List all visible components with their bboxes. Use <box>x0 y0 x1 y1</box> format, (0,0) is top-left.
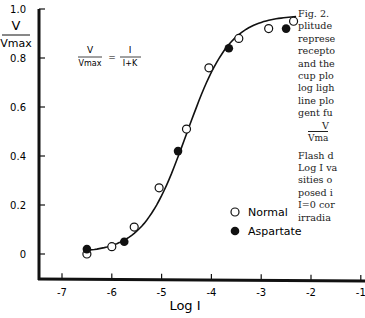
x-tick-label: -5 <box>157 287 167 298</box>
x-tick-label: -4 <box>206 287 216 298</box>
normal-point <box>108 243 116 251</box>
caption-line: Fig. 2. <box>298 8 365 20</box>
caption-line: line plo <box>298 95 365 107</box>
legend-aspartate-label: Aspartate <box>248 225 302 238</box>
legend: Normal Aspartate <box>231 206 302 238</box>
legend-aspartate-marker <box>231 227 240 236</box>
y-tick-label: 1.0 <box>10 4 26 15</box>
aspartate-point <box>282 24 291 33</box>
caption-line: gent fu <box>298 107 365 119</box>
normal-point <box>183 125 191 133</box>
aspartate-point <box>83 245 92 254</box>
x-tick-label: -1 <box>356 287 365 298</box>
svg-text:V: V <box>87 45 94 55</box>
y-tick-label: 0 <box>20 249 26 260</box>
x-tick-label: -6 <box>107 287 117 298</box>
caption-line: posed i <box>298 187 365 199</box>
x-axis-label: Log I <box>169 298 200 313</box>
x-tick-label: -2 <box>306 287 316 298</box>
legend-normal-marker <box>231 208 239 216</box>
y-tick-label: 0.6 <box>10 102 26 113</box>
normal-point <box>290 17 298 25</box>
caption-line: represe <box>298 33 365 45</box>
aspartate-point <box>174 147 183 156</box>
y-axis-label: V Vmax <box>0 18 32 50</box>
normal-point <box>265 25 273 33</box>
normal-point <box>130 223 138 231</box>
y-tick-label: 0.2 <box>10 200 26 211</box>
y-tick-label: 0.8 <box>10 53 26 64</box>
aspartate-point <box>120 237 129 246</box>
formula-annotation: V Vmax = I I+K <box>78 45 141 68</box>
aspartate-point <box>225 44 234 53</box>
caption-line: sities o <box>298 174 365 186</box>
normal-point <box>205 64 213 72</box>
x-tick-label: -3 <box>256 287 266 298</box>
legend-normal-label: Normal <box>248 206 288 219</box>
svg-text:I: I <box>129 45 132 55</box>
svg-text:=: = <box>108 52 116 62</box>
svg-text:V: V <box>12 18 21 33</box>
y-tick-label: 0.4 <box>10 151 26 162</box>
svg-text:Vmax: Vmax <box>79 59 102 68</box>
caption-line: cup plo <box>298 70 365 82</box>
caption-line: I=0 cor <box>298 199 365 211</box>
caption-line: Flash d <box>298 150 365 162</box>
caption-line: log ligh <box>298 82 365 94</box>
figure-caption: Fig. 2.plituderepresereceptoand thecup p… <box>298 8 365 224</box>
normal-point <box>235 34 243 42</box>
normal-point <box>155 184 163 192</box>
caption-formula: V Vma <box>298 120 365 146</box>
svg-text:I+K: I+K <box>123 59 138 68</box>
caption-line: plitude <box>298 20 365 32</box>
x-axis: -7-6-5-4-3-2-1 <box>38 273 365 298</box>
x-tick-label: -7 <box>57 287 67 298</box>
caption-line: recepto <box>298 45 365 57</box>
svg-text:Vmax: Vmax <box>0 37 32 50</box>
caption-line: irradia <box>298 212 365 224</box>
caption-line: Log I va <box>298 162 365 174</box>
caption-line: and the <box>298 58 365 70</box>
